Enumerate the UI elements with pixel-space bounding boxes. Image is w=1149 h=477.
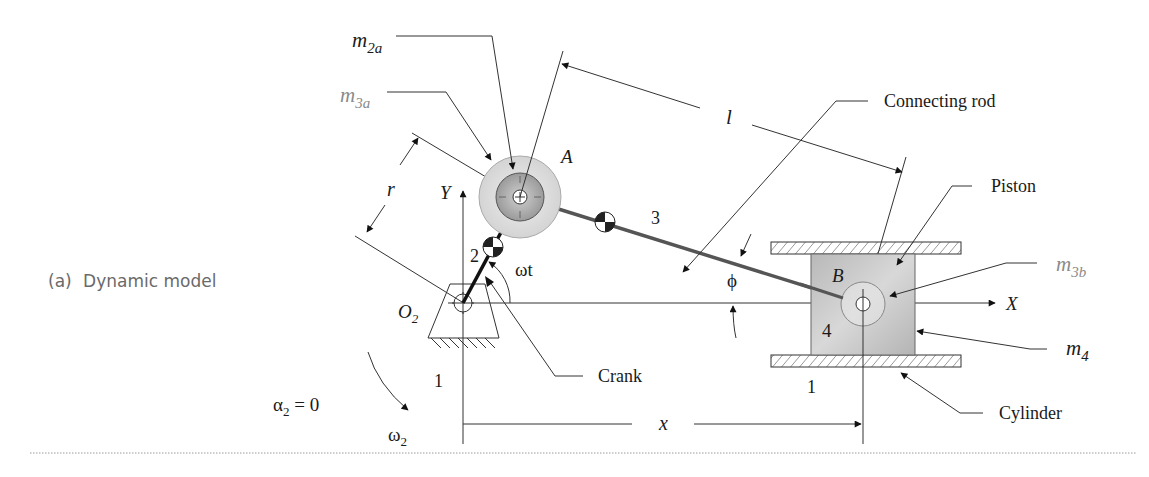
piston-position-dimension: x bbox=[463, 412, 861, 434]
rod-length-label: l bbox=[726, 105, 732, 129]
caption-prefix: (a) bbox=[48, 271, 72, 291]
y-axis-label: Y bbox=[440, 182, 453, 203]
cylinder-wall-top bbox=[771, 242, 961, 254]
figure-caption: (a) Dynamic model bbox=[48, 271, 216, 291]
ground-link-label-right: 1 bbox=[807, 377, 816, 397]
rod-link-number: 3 bbox=[651, 208, 660, 228]
m2a-label: m2a bbox=[352, 28, 382, 56]
ground-link-label-left: 1 bbox=[434, 371, 443, 391]
angular-velocity-indicator: α2 = 0 ω2 1 bbox=[273, 352, 443, 449]
cylinder-wall-bottom bbox=[771, 355, 961, 367]
r-extension-bottom bbox=[355, 236, 462, 302]
mass-at-A: A bbox=[479, 146, 573, 238]
caption-text: Dynamic model bbox=[83, 271, 216, 291]
m3b-callout: m3b bbox=[890, 252, 1087, 296]
x-axis-label: X bbox=[1005, 293, 1019, 314]
alpha-label: α2 = 0 bbox=[273, 394, 319, 419]
svg-text:(a) Dynamic model: (a) Dynamic model bbox=[48, 271, 216, 291]
m4-label: m4 bbox=[1066, 336, 1089, 364]
crank-callout: Crank bbox=[485, 276, 642, 386]
cylinder-callout: Cylinder bbox=[901, 373, 1062, 423]
crank-callout-label: Crank bbox=[598, 366, 642, 386]
point-a-label: A bbox=[559, 146, 573, 167]
crank-leader-line bbox=[490, 282, 583, 376]
point-b-label: B bbox=[832, 265, 844, 286]
rod-angle-indicator: ϕ bbox=[727, 234, 751, 338]
rotation-arrow-icon bbox=[368, 352, 408, 410]
cylinder-leader-line bbox=[901, 373, 983, 413]
crank-angle-indicator: ωt bbox=[489, 259, 534, 303]
m3a-callout: m3a bbox=[340, 83, 491, 160]
connecting-rod-label: Connecting rod bbox=[884, 91, 995, 111]
piston: B 4 bbox=[811, 254, 915, 444]
crank-centroid-icon bbox=[483, 237, 503, 257]
cylinder-callout-label: Cylinder bbox=[999, 403, 1062, 423]
origin-label: O2 bbox=[398, 301, 419, 326]
crank-length-label: r bbox=[387, 178, 395, 200]
crank-angle-label: ωt bbox=[515, 259, 534, 280]
m2a-callout: m2a bbox=[352, 28, 513, 169]
m3a-label: m3a bbox=[340, 83, 370, 111]
rod-angle-label: ϕ bbox=[727, 270, 737, 291]
piston-link-number: 4 bbox=[822, 320, 832, 341]
omega-label: ω2 bbox=[388, 424, 407, 449]
crank-link-number: 2 bbox=[470, 246, 479, 266]
rod-centroid-icon bbox=[595, 212, 615, 232]
piston-position-label: x bbox=[658, 412, 668, 434]
slider-crank-diagram: (a) Dynamic model Y X O2 α2 = bbox=[0, 0, 1149, 477]
piston-callout-label: Piston bbox=[991, 176, 1036, 196]
m3b-label: m3b bbox=[1056, 252, 1087, 280]
